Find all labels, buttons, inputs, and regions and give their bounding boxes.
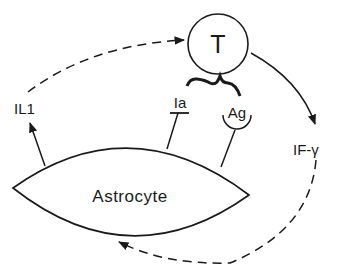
binding-brace-icon	[187, 76, 240, 96]
diagram-canvas: T Astrocyte IL1 Ia Ag IF-γ	[0, 0, 342, 271]
ag-receptor: Ag	[221, 104, 251, 167]
ifg-label: IF-γ	[293, 141, 319, 158]
il1-label: IL1	[14, 100, 35, 117]
t-to-ifg-arrow	[251, 53, 315, 124]
ia-label: Ia	[174, 94, 187, 111]
t-cell-node: T	[188, 14, 248, 74]
astrocyte-to-il1-arrow	[30, 123, 45, 166]
astrocyte-label: Astrocyte	[92, 187, 167, 206]
il1-to-t-arrow	[28, 40, 184, 92]
ia-receptor: Ia	[167, 94, 189, 149]
t-cell-label: T	[210, 30, 225, 58]
ag-label: Ag	[228, 104, 246, 121]
astrocyte-node: Astrocyte	[13, 148, 249, 236]
